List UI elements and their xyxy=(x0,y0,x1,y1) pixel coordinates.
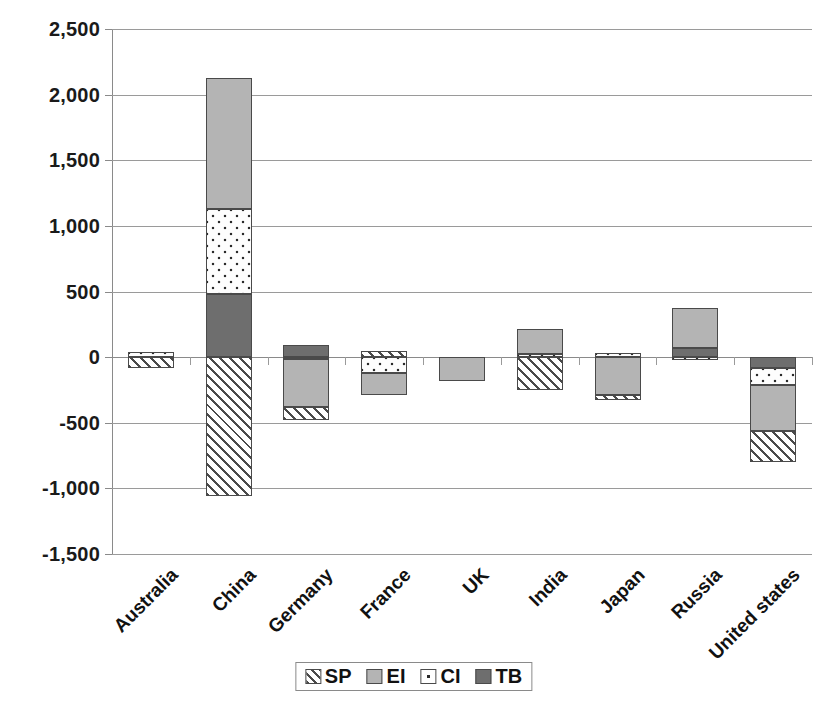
y-tick-mark xyxy=(105,488,112,489)
bar-group xyxy=(439,29,485,554)
legend-item-tb: TB xyxy=(475,666,522,686)
bar-segment-sp xyxy=(128,357,174,368)
bar-group xyxy=(128,29,174,554)
x-axis-label-japan: Japan xyxy=(492,564,649,714)
bar-segment-ci xyxy=(750,368,796,385)
y-tick-mark xyxy=(105,29,112,30)
x-axis-label-france: France xyxy=(259,564,416,714)
x-axis-label-china: China xyxy=(103,564,260,714)
y-tick-label: 2,000 xyxy=(0,83,100,106)
bar-segment-sp xyxy=(750,431,796,462)
y-tick-label: 1,000 xyxy=(0,214,100,237)
legend-swatch-tb-icon xyxy=(475,669,491,684)
bar-segment-ei xyxy=(517,329,563,354)
gridline--1500 xyxy=(112,554,812,555)
x-axis-label-russia: Russia xyxy=(570,564,727,714)
bar-segment-tb xyxy=(750,357,796,368)
bar-segment-ci xyxy=(361,357,407,373)
bar-group xyxy=(517,29,563,554)
y-tick-label: -500 xyxy=(0,411,100,434)
bar-segment-ci xyxy=(206,209,252,294)
stacked-bar-chart: 2,5002,0001,5001,0005000-500-1,000-1,500… xyxy=(0,0,827,714)
legend-label: EI xyxy=(387,666,406,686)
bar-segment-ei xyxy=(672,308,718,348)
legend-item-ei: EI xyxy=(367,666,406,686)
chart-legend: SPEICITB xyxy=(295,662,532,691)
bar-group xyxy=(283,29,329,554)
bar-group xyxy=(672,29,718,554)
x-minor-tick xyxy=(345,357,346,365)
legend-item-ci: CI xyxy=(420,666,460,686)
y-tick-mark xyxy=(105,423,112,424)
x-minor-tick xyxy=(579,357,580,365)
y-tick-label: 500 xyxy=(0,280,100,303)
bar-segment-tb xyxy=(206,294,252,357)
x-axis-label-germany: Germany xyxy=(181,564,338,714)
x-minor-tick xyxy=(268,357,269,365)
plot-area xyxy=(112,29,812,554)
bar-group xyxy=(595,29,641,554)
x-minor-tick xyxy=(423,357,424,365)
y-tick-mark xyxy=(105,357,112,358)
legend-item-sp: SP xyxy=(305,666,352,686)
bar-segment-sp xyxy=(595,395,641,400)
y-tick-label: 2,500 xyxy=(0,18,100,41)
bar-segment-ei xyxy=(206,78,252,210)
bar-group xyxy=(750,29,796,554)
x-axis-label-uk: UK xyxy=(337,564,494,714)
bar-segment-ei xyxy=(439,357,485,381)
legend-swatch-sp-icon xyxy=(305,669,321,684)
bar-group xyxy=(361,29,407,554)
bar-segment-ei xyxy=(361,373,407,395)
x-minor-tick xyxy=(656,357,657,365)
bar-segment-sp xyxy=(283,407,329,420)
x-axis-label-australia: Australia xyxy=(25,564,182,714)
legend-label: SP xyxy=(325,666,352,686)
y-tick-label: -1,500 xyxy=(0,543,100,566)
x-minor-tick xyxy=(501,357,502,365)
y-tick-mark xyxy=(105,226,112,227)
bar-segment-tb xyxy=(283,345,329,357)
bar-group xyxy=(206,29,252,554)
x-minor-tick xyxy=(812,357,813,365)
legend-label: CI xyxy=(440,666,460,686)
y-tick-label: -1,000 xyxy=(0,477,100,500)
legend-swatch-ei-icon xyxy=(367,669,383,684)
legend-swatch-ci-icon xyxy=(420,669,436,684)
x-axis-label-united-states: United states xyxy=(648,564,805,714)
y-tick-label: 1,500 xyxy=(0,149,100,172)
legend-label: TB xyxy=(495,666,522,686)
y-tick-mark xyxy=(105,554,112,555)
bar-segment-tb xyxy=(672,348,718,357)
bar-segment-ei xyxy=(750,385,796,431)
bar-segment-ci xyxy=(672,357,718,360)
y-tick-mark xyxy=(105,95,112,96)
y-tick-mark xyxy=(105,292,112,293)
y-tick-label: 0 xyxy=(0,346,100,369)
y-tick-mark xyxy=(105,160,112,161)
bar-segment-sp xyxy=(206,357,252,496)
bar-segment-ei xyxy=(283,359,329,407)
x-minor-tick xyxy=(734,357,735,365)
bar-segment-sp xyxy=(517,357,563,390)
x-axis-label-india: India xyxy=(414,564,571,714)
x-minor-tick xyxy=(190,357,191,365)
bar-segment-ei xyxy=(595,357,641,394)
